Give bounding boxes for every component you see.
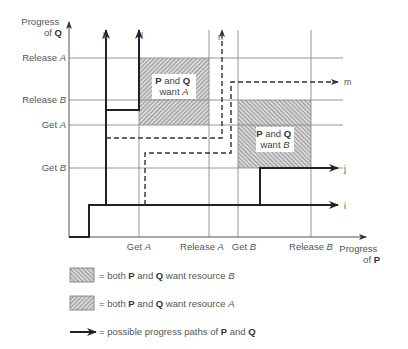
path-label-k: k <box>103 31 108 41</box>
legend-swatch-hatch-forward <box>70 268 94 282</box>
legend-item-paths: = possible progress paths of P and Q <box>99 326 256 337</box>
path-label-l: l <box>141 31 143 41</box>
y-tick-release-a: Release A <box>22 52 66 63</box>
x-tick-release-a: Release A <box>180 241 224 252</box>
x-axis-title: Progress of P <box>339 243 380 265</box>
region-want-b-label: P and Q want B <box>256 128 294 150</box>
legend: = both P and Q want resource B = both P … <box>70 268 256 337</box>
legend-item-resource-a: = both P and Q want resource A <box>99 298 235 309</box>
path-label-n: n <box>218 32 223 42</box>
legend-item-resource-b: = both P and Q want resource B <box>99 270 235 281</box>
x-tick-release-b: Release B <box>289 241 334 252</box>
path-j <box>260 168 338 205</box>
y-tick-get-a: Get A <box>42 119 66 130</box>
y-tick-get-b: Get B <box>42 162 67 173</box>
path-base <box>69 205 106 237</box>
path-label-i: i <box>344 201 346 211</box>
y-tick-release-b: Release B <box>22 94 67 105</box>
path-l <box>106 30 139 110</box>
x-tick-get-a: Get A <box>127 241 151 252</box>
legend-swatch-hatch-back <box>70 296 94 310</box>
deadlock-progress-diagram: k l n m j i Progress of Q Release A Rele… <box>0 0 408 349</box>
path-label-m: m <box>344 77 352 87</box>
y-axis-title: Progress of Q <box>21 16 62 38</box>
path-label-j: j <box>343 164 346 174</box>
region-want-a-label: P and Q want A <box>155 75 193 97</box>
x-tick-get-b: Get B <box>232 241 257 252</box>
